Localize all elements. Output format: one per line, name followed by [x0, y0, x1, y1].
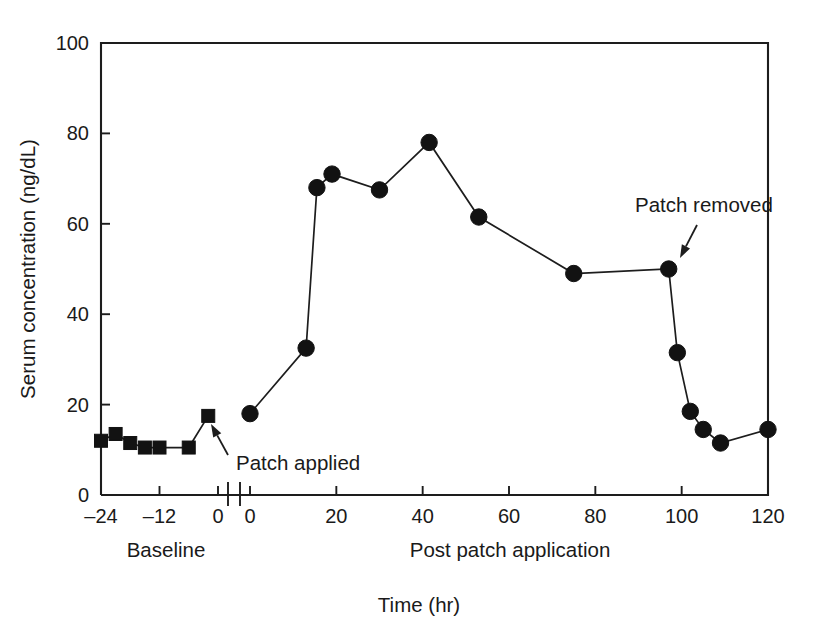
y-axis-title: Serum concentration (ng/dL) [16, 139, 39, 399]
data-point-1-12 [712, 435, 728, 451]
serum-concentration-line-chart: 020406080100–24–120020406080100120 Patch… [0, 0, 825, 637]
chart-annotations: Patch appliedPatch removed [211, 193, 773, 474]
annotation-arrow-line-patch-applied [217, 435, 228, 455]
data-point-1-9 [669, 344, 685, 360]
data-point-1-7 [566, 265, 582, 281]
data-point-0-1 [109, 427, 122, 440]
data-point-0-0 [95, 434, 108, 447]
y-tick-label-40: 40 [67, 303, 89, 325]
x-tick-label-post-20: 20 [325, 505, 347, 527]
data-point-1-2 [309, 179, 325, 195]
chart-data-markers [95, 134, 777, 454]
data-point-1-0 [242, 405, 258, 421]
data-point-1-4 [371, 182, 387, 198]
y-tick-label-60: 60 [67, 213, 89, 235]
x-tick-label-post-60: 60 [498, 505, 520, 527]
x-tick-label-post-100: 100 [665, 505, 698, 527]
data-point-0-6 [202, 409, 215, 422]
y-tick-label-80: 80 [67, 122, 89, 144]
data-point-0-2 [124, 437, 137, 450]
chart-figure: 020406080100–24–120020406080100120 Patch… [0, 0, 825, 637]
annotation-arrow-head-patch-removed [680, 244, 690, 258]
data-point-0-4 [153, 441, 166, 454]
post-patch-group-label: Post patch application [410, 538, 611, 561]
y-tick-label-20: 20 [67, 394, 89, 416]
x-tick-label-post-40: 40 [412, 505, 434, 527]
data-point-0-5 [182, 441, 195, 454]
data-point-1-5 [421, 134, 437, 150]
series-line-post-patch-application [250, 142, 768, 443]
x-tick-label-baseline-2: 0 [212, 505, 223, 527]
x-tick-label-post-120: 120 [751, 505, 784, 527]
x-axis-title: Time (hr) [378, 593, 460, 616]
annotation-arrow-head-patch-applied [211, 424, 221, 438]
data-point-1-8 [661, 261, 677, 277]
data-point-1-11 [695, 421, 711, 437]
x-tick-label-post-80: 80 [584, 505, 606, 527]
chart-data-series [101, 142, 768, 447]
data-point-1-1 [298, 340, 314, 356]
data-point-1-13 [760, 421, 776, 437]
data-point-0-3 [138, 441, 151, 454]
x-tick-label-baseline-1: –12 [143, 505, 176, 527]
x-tick-label-post-0: 0 [244, 505, 255, 527]
y-tick-label-100: 100 [56, 32, 89, 54]
annotation-label-patch-removed: Patch removed [635, 193, 773, 216]
data-point-1-3 [324, 166, 340, 182]
annotation-label-patch-applied: Patch applied [236, 451, 360, 474]
data-point-1-6 [471, 209, 487, 225]
data-point-1-10 [682, 403, 698, 419]
annotation-arrow-line-patch-removed [686, 225, 697, 246]
x-tick-label-baseline-0: –24 [84, 505, 117, 527]
baseline-group-label: Baseline [127, 538, 206, 561]
y-tick-label-0: 0 [78, 484, 89, 506]
